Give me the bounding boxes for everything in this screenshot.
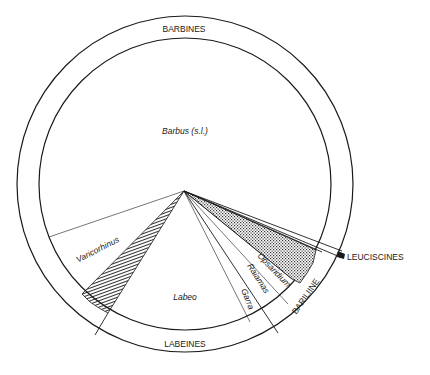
label-labeines: LABEINES: [164, 339, 206, 349]
leuciscines-pointer-icon: [337, 251, 345, 259]
label-bariliine: BARILIINE: [290, 276, 322, 316]
phylogeny-ring-diagram: BARBINES LABEINES BARILIINE LEUCISCINES …: [0, 0, 430, 375]
label-varicorhinus: Varicorhinus: [74, 234, 121, 265]
label-barbines: BARBINES: [163, 24, 206, 34]
label-garra: Garra: [239, 287, 257, 311]
label-barbus: Barbus (s.l.): [162, 126, 208, 136]
label-labeo: Labeo: [173, 292, 197, 302]
label-leuciscines: LEUCISCINES: [347, 252, 404, 262]
